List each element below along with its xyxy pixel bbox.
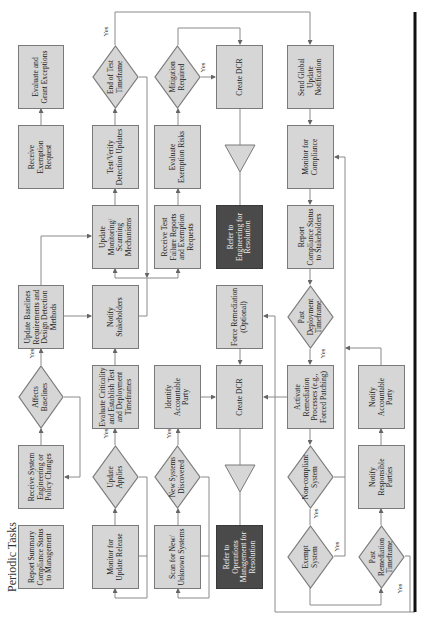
node-label: Update Baselines Requirements and Design… [24,286,58,348]
node-label: Monitor for Compliance [302,126,319,188]
yes-label: Yes [319,349,326,359]
node-label: Receive System Engineering or Policy Cha… [28,446,54,508]
node-label: Past Deployment Timeframe [298,294,324,340]
report-compliance-status-box: Report Compliance Status to Stakeholders [287,205,334,269]
exempt-system-diamond: Exempt System [287,525,334,589]
node-label: Create DCR [235,46,244,108]
scan-new-systems-box: Scan for New/ Unknown Systems [154,525,201,589]
yes-label: Yes [396,584,403,594]
node-label: Refer to Operations Management for Resol… [222,526,256,588]
node-label: Scan for New/ Unknown Systems [169,526,186,588]
past-deployment-timeframe-diamond: Past Deployment Timeframe [287,285,334,349]
send-global-update-box: Send Global Update Notification [287,45,334,109]
node-label: Evaluate and Grant Exceptions [32,46,49,108]
yes-label: Yes [102,27,109,37]
node-label: New Systems Discovered [169,454,186,500]
node-label: Notify Accountable Party [369,366,395,428]
affects-baselines-diamond: Affects Baselines [18,365,64,429]
notify-responsible-parties-box: Notify Responsible Parties [358,445,405,509]
node-label: Affects Baselines [32,374,49,420]
node-label: Exempt System [302,534,319,580]
past-remediation-timeframe-diamond: Past Remediation Timeframe [358,525,405,589]
node-label: End of Test Timeframe [107,54,124,100]
activate-remediation-box: Activate Remediation Processes (e.g., Fo… [287,365,334,429]
evaluate-criticality-box: Evaluate Criticality and Establish Test … [92,365,139,429]
node-label: Create DCR [235,366,244,428]
yes-label: Yes [199,63,206,73]
receive-system-changes-box: Receive System Engineering or Policy Cha… [18,445,64,509]
notify-accountable-party-box: Notify Accountable Party [358,365,405,429]
node-label: Update Applies [107,454,124,500]
node-label: Notify Stakeholders [107,286,124,348]
node-label: Mitigation Required [169,54,186,100]
non-compliant-system-diamond: Non-compliant System [287,445,334,509]
node-label: Activate Remediation Processes (e.g., Fo… [293,366,327,428]
node-label: Notify Responsible Parties [369,446,395,508]
create-dcr-bottom-box: Create DCR [216,365,263,429]
node-label: Report Summary Compliance Status to Mana… [28,526,54,588]
node-label: Evaluate Criticality and Establish Test … [98,366,132,428]
test-verify-detection-box: Test/Verify Detection Updates [92,125,139,189]
node-label: Non-compliant System [302,454,319,500]
new-systems-discovered-diamond: New Systems Discovered [154,445,201,509]
force-remediation-box: Force Remediation (Optional) [216,285,263,349]
update-monitoring-box: Update Monitoring/ Scanning Mechanisms [92,205,139,269]
report-summary-box: Report Summary Compliance Status to Mana… [18,525,64,589]
node-label: Receive Test Failure Reports and Exempti… [160,206,194,268]
node-label: Report Compliance Status to Stakeholders [298,206,324,268]
receive-test-failure-box: Receive Test Failure Reports and Exempti… [154,205,201,269]
end-of-test-timeframe-diamond: End of Test Timeframe [92,45,139,109]
yes-label: Yes [165,429,172,439]
yes-label: Yes [102,429,109,439]
refer-operations-box: Refer to Operations Management for Resol… [216,525,263,589]
create-dcr-top-box: Create DCR [216,45,263,109]
update-applies-diamond: Update Applies [92,445,139,509]
refer-engineering-box: Refer to Engineering for Resolution [216,205,263,269]
node-label: Force Remediation (Optional) [231,286,248,348]
node-label: Refer to Engineering for Resolution [227,206,253,268]
identify-accountable-party-box: Identify Accountable Party [154,365,201,429]
flowchart-canvas: Periodic Tasks Evaluate and Grant Except… [0,0,425,623]
node-label: Update Monitoring/ Scanning Mechanisms [98,206,132,268]
node-label: Past Remediation Timeframe [369,534,395,580]
mitigation-required-diamond: Mitigation Required [154,45,201,109]
monitor-update-release-box: Monitor for Update Release [92,525,139,589]
receive-exemption-request-box: Receive Exemption Request [18,125,64,189]
node-label: Monitor for Update Release [107,526,124,588]
node-label: Identify Accountable Party [165,366,191,428]
node-label: Send Global Update Notification [298,46,324,108]
yes-label: Yes [312,509,319,519]
yes-label: Yes [333,542,340,552]
evaluate-grant-exceptions-box: Evaluate and Grant Exceptions [18,45,64,109]
node-label: Receive Exemption Request [28,126,54,188]
yes-label: Yes [28,349,35,359]
monitor-compliance-box: Monitor for Compliance [287,125,334,189]
node-label: Test/Verify Detection Updates [107,126,124,188]
node-label: Evaluate Exemption Risks [169,126,186,188]
update-baselines-box: Update Baselines Requirements and Design… [18,285,64,349]
evaluate-exemption-risks-box: Evaluate Exemption Risks [154,125,201,189]
notify-stakeholders-box: Notify Stakeholders [92,285,139,349]
